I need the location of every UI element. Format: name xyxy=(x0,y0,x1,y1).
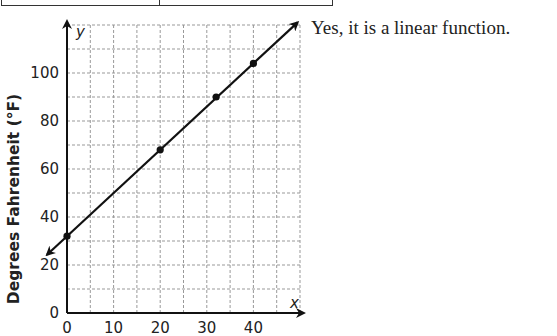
chart-series xyxy=(47,22,298,254)
line-arrow-left xyxy=(47,236,67,255)
linear-function-chart: 010203040020406080100 Degrees Fahrenheit… xyxy=(0,0,557,336)
y-tick-label: 20 xyxy=(40,256,59,274)
x-tick-label: 10 xyxy=(104,319,123,336)
x-tick-label: 30 xyxy=(197,319,216,336)
data-point xyxy=(213,93,220,100)
answer-text: Yes, it is a linear function. xyxy=(311,17,510,39)
chart-grid xyxy=(67,25,300,313)
y-tick-label: 40 xyxy=(40,208,59,226)
y-tick-label: 100 xyxy=(30,64,59,82)
y-tick-label: 60 xyxy=(40,160,59,178)
x-axis-variable: x xyxy=(289,294,299,312)
data-point xyxy=(63,233,70,240)
y-axis-label: Degrees Fahrenheit (°F) xyxy=(5,94,23,304)
y-tick-label: 80 xyxy=(40,112,59,130)
line-arrow-right xyxy=(67,22,298,236)
chart-axes xyxy=(67,21,304,313)
x-tick-label: 0 xyxy=(62,319,72,336)
y-tick-label: 0 xyxy=(49,304,59,322)
x-tick-label: 20 xyxy=(151,319,170,336)
chart-tick-labels: 010203040020406080100 xyxy=(30,64,263,336)
data-point xyxy=(250,60,257,67)
x-tick-label: 40 xyxy=(244,319,263,336)
data-point xyxy=(157,146,164,153)
y-axis-variable: y xyxy=(75,23,86,41)
